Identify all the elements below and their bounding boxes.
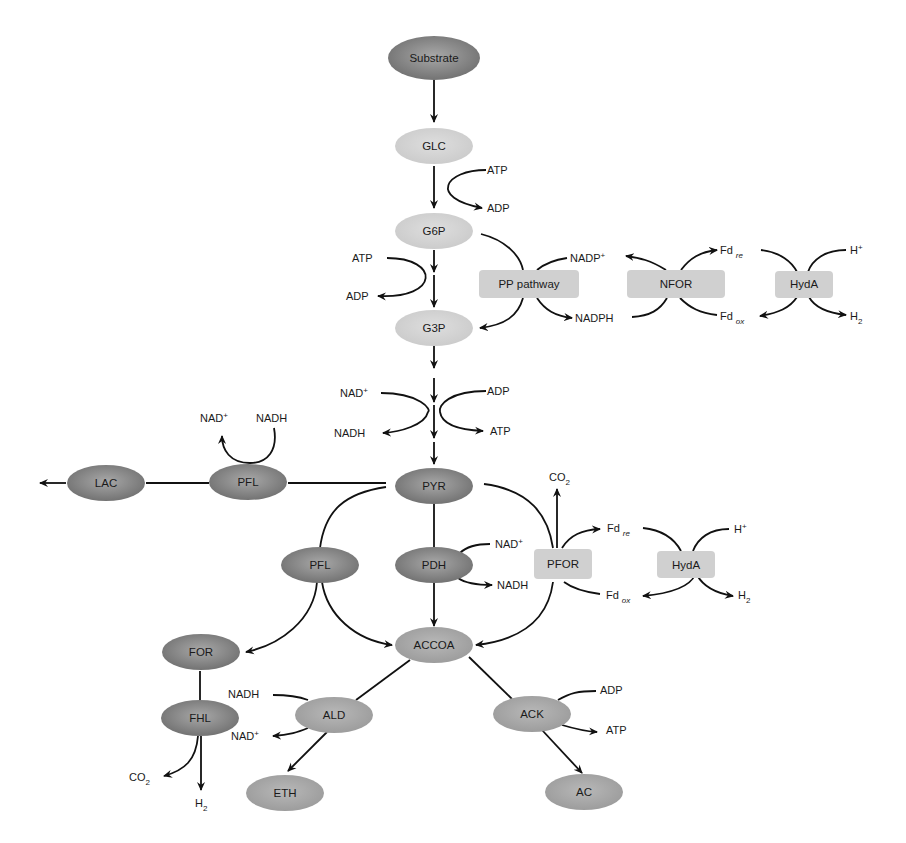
node-label: PFL — [309, 559, 331, 571]
label-atp: ATP — [606, 724, 627, 736]
node-label: G6P — [422, 225, 445, 237]
label-nadp-plus: NADP+ — [570, 251, 606, 264]
edge-atp-adp-glc — [448, 170, 486, 208]
label-adp: ADP — [346, 290, 369, 302]
edge-ald-eth — [288, 732, 327, 771]
edge-pp-nadph — [537, 298, 572, 318]
node-label: PFL — [237, 476, 259, 488]
edge-nfor-nadp — [626, 256, 666, 270]
edge-nad-nadh-gly — [381, 393, 429, 433]
label-adp: ADP — [487, 202, 510, 214]
label-adp: ADP — [600, 684, 623, 696]
node-pfl-left[interactable]: PFL — [209, 464, 287, 500]
label-h2: H2 — [850, 310, 863, 326]
box-label: NFOR — [660, 278, 693, 290]
nodes: Substrate GLC G6P G3P PYR LAC PFL PFL — [67, 36, 623, 811]
edge-pp-g3p — [480, 298, 523, 328]
edge-adp-atp-gly — [440, 391, 486, 431]
box-hyda-mid[interactable]: HydA — [657, 551, 715, 578]
node-for[interactable]: FOR — [162, 634, 240, 670]
node-label: Substrate — [409, 52, 458, 64]
edge-nadplus-pdh — [460, 544, 490, 553]
label-atp: ATP — [352, 252, 373, 264]
edge-nadh-nad-lac — [222, 428, 275, 463]
box-label: HydA — [672, 559, 700, 571]
edge-fdre-hyda-mid — [643, 528, 681, 551]
label-fd-re: Fdre — [607, 522, 631, 538]
edge-fdre-hyda — [761, 250, 797, 272]
node-pdh[interactable]: PDH — [395, 547, 473, 583]
edge-g6p-pp — [481, 234, 523, 270]
edge-atp-adp-g6p — [378, 258, 426, 296]
node-eth[interactable]: ETH — [246, 775, 324, 811]
label-h-plus: H+ — [850, 243, 863, 256]
label-nadh: NADH — [497, 579, 528, 591]
label-nad-plus: NAD+ — [200, 411, 228, 424]
node-g3p[interactable]: G3P — [395, 310, 473, 346]
edge-hplus-hyda — [808, 250, 846, 272]
box-hyda-top[interactable]: HydA — [775, 271, 833, 298]
edge-ald-nadplus — [273, 728, 308, 736]
label-nad-plus: NAD+ — [495, 537, 523, 550]
box-pfor[interactable]: PFOR — [534, 549, 592, 579]
label-adp: ADP — [487, 385, 510, 397]
edge-nadp-pp — [537, 258, 567, 270]
edge-pfl-for — [246, 582, 317, 652]
edge-fdox-nfor — [680, 298, 717, 315]
edge-adp-ack — [558, 691, 596, 700]
box-nfor[interactable]: NFOR — [627, 270, 725, 298]
node-label: FHL — [189, 712, 211, 724]
node-label: ACCOA — [414, 639, 455, 651]
node-label: ALD — [323, 709, 345, 721]
label-atp: ATP — [490, 425, 511, 437]
node-label: AC — [576, 786, 592, 798]
label-co2: CO2 — [129, 771, 151, 787]
node-ald[interactable]: ALD — [295, 697, 373, 733]
edge-ack-ac — [542, 730, 582, 773]
node-substrate[interactable]: Substrate — [388, 36, 480, 80]
edge-pdh-nadh — [458, 578, 492, 585]
label-nadh: NADH — [228, 688, 259, 700]
node-label: LAC — [95, 477, 117, 489]
edge-nadh-ald — [273, 695, 308, 700]
edge-accoa-ald — [356, 660, 410, 700]
edge-hyda-fdox — [760, 297, 797, 316]
node-label: PDH — [422, 559, 446, 571]
box-label: PFOR — [547, 558, 579, 570]
box-label: HydA — [790, 278, 818, 290]
label-atp: ATP — [487, 164, 508, 176]
node-pfl[interactable]: PFL — [281, 547, 359, 583]
node-pyr[interactable]: PYR — [395, 468, 473, 504]
label-nadh: NADH — [334, 427, 365, 439]
label-nad-plus: NAD+ — [340, 386, 368, 399]
pathway-diagram: Substrate GLC G6P G3P PYR LAC PFL PFL — [0, 0, 906, 843]
node-accoa[interactable]: ACCOA — [395, 627, 473, 663]
label-nadph: NADPH — [575, 312, 614, 324]
edge-pfor-accoa — [476, 582, 553, 645]
edge-ack-atp — [562, 725, 597, 732]
edge-pyr-pfl — [320, 487, 386, 548]
node-label: PYR — [422, 480, 446, 492]
node-glc[interactable]: GLC — [395, 128, 473, 164]
label-fd-re: Fdre — [720, 244, 744, 260]
node-lac[interactable]: LAC — [67, 465, 145, 501]
edge-nfor-fdre — [681, 250, 717, 270]
label-nad-plus: NAD+ — [231, 729, 259, 742]
edge-pfl-accoa — [322, 582, 392, 645]
node-ack[interactable]: ACK — [493, 696, 571, 732]
label-co2: CO2 — [549, 471, 571, 487]
edge-hyda-h2 — [809, 297, 846, 315]
node-fhl[interactable]: FHL — [161, 700, 239, 736]
node-g6p[interactable]: G6P — [395, 213, 473, 249]
box-pp-pathway[interactable]: PP pathway — [479, 270, 579, 298]
edge-nadph-nfor — [632, 298, 667, 317]
box-label: PP pathway — [498, 278, 559, 290]
edge-fdox-pfor — [564, 582, 600, 594]
label-h2: H2 — [738, 589, 751, 605]
node-ac[interactable]: AC — [545, 774, 623, 810]
edge-accoa-ack — [469, 657, 512, 699]
node-label: ETH — [274, 787, 297, 799]
edge-hplus-hyda-mid — [693, 529, 729, 551]
edge-hyda-h2-mid — [697, 575, 733, 596]
node-label: ACK — [520, 708, 544, 720]
